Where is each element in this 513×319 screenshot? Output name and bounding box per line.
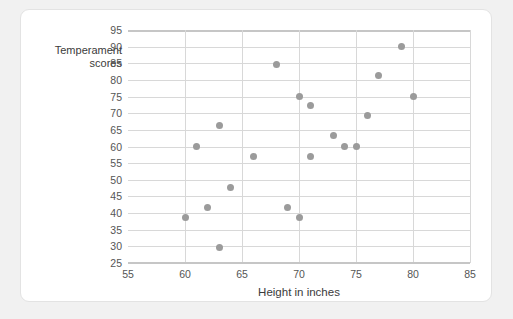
y-tick-80: 80 [100,74,122,86]
x-tick-75: 75 [350,268,362,280]
x-axis-label: Height in inches [128,286,470,298]
y-tick-95: 95 [100,24,122,36]
x-tick-85: 85 [464,268,476,280]
data-point [307,102,314,109]
y-tick-70: 70 [100,107,122,119]
data-point [296,93,303,100]
plot-area: 253035404550556065707580859095 556065707… [128,30,470,263]
data-point [410,93,417,100]
y-tick-35: 35 [100,224,122,236]
y-tick-45: 45 [100,190,122,202]
y-tick-50: 50 [100,174,122,186]
gridline-x-80 [413,30,414,263]
scatter-chart-figure: Temperament scores 253035404550556065707… [0,0,513,319]
y-tick-25: 25 [100,257,122,269]
gridline-x-65 [242,30,243,263]
data-point [182,214,189,221]
gridline-x-60 [185,30,186,263]
data-point [296,214,303,221]
y-tick-60: 60 [100,141,122,153]
data-point [284,204,291,211]
y-tick-55: 55 [100,157,122,169]
data-point [353,143,360,150]
data-point [250,153,257,160]
y-tick-40: 40 [100,207,122,219]
x-tick-60: 60 [179,268,191,280]
x-axis-line [128,262,470,264]
data-point [216,244,223,251]
data-point [307,153,314,160]
data-point [204,204,211,211]
y-tick-85: 85 [100,57,122,69]
y-tick-90: 90 [100,41,122,53]
x-tick-55: 55 [122,268,134,280]
data-point [330,132,337,139]
x-tick-65: 65 [236,268,248,280]
data-point [341,143,348,150]
data-point [375,72,382,79]
data-point [227,184,234,191]
data-point [193,143,200,150]
gridline-x-70 [299,30,300,263]
data-point [398,43,405,50]
x-tick-70: 70 [293,268,305,280]
x-tick-80: 80 [407,268,419,280]
data-point [216,122,223,129]
data-point [273,61,280,68]
data-point [364,112,371,119]
gridline-x-85 [470,30,471,263]
y-tick-65: 65 [100,124,122,136]
y-tick-30: 30 [100,240,122,252]
y-tick-75: 75 [100,91,122,103]
